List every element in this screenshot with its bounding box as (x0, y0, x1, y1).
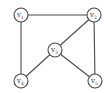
node-v3: v3 (48, 43, 62, 57)
edge-v2-v5 (94, 15, 95, 81)
edge-v2-v3 (55, 15, 94, 50)
node-v1: v1 (14, 8, 28, 22)
edge-v3-v5 (55, 50, 95, 81)
graph-diagram: v1v2v3v4v5 (0, 0, 111, 93)
node-v4: v4 (14, 74, 28, 88)
node-v5: v5 (88, 74, 102, 88)
node-v2: v2 (87, 8, 101, 22)
